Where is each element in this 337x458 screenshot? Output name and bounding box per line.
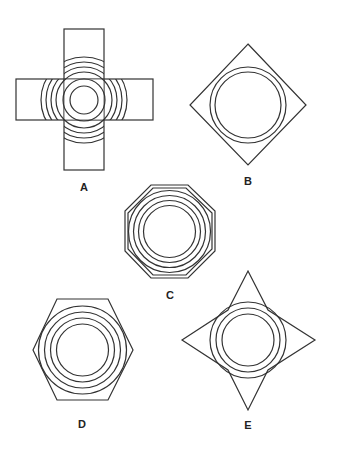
hexagon-circle-1 [39,306,127,394]
hexagon-outline [33,299,133,400]
octagon-circle-3 [139,201,201,263]
star-circle-middle [216,308,280,372]
label-e: E [244,419,251,431]
label-d: D [78,418,86,430]
option-a-figure[interactable] [16,29,153,170]
option-b-figure[interactable] [190,44,306,165]
star-circle-outer [210,302,286,378]
octagon-circle-2 [134,196,206,268]
star-circle-inner [222,314,274,366]
diamond-circle-outer [210,67,286,143]
octagon-circle-4 [144,206,196,258]
option-c-figure[interactable] [125,185,215,278]
figure-canvas: A B C D E [0,0,337,458]
star-outline [182,271,315,410]
octagon-circle-1 [129,191,211,273]
option-e-figure[interactable] [182,271,315,410]
diamond-outline [190,44,306,165]
option-d-figure[interactable] [33,299,133,400]
label-b: B [244,175,252,187]
hexagon-circle-3 [51,318,115,382]
label-a: A [80,181,88,193]
label-c: C [166,289,174,301]
diamond-circle-inner [215,72,281,138]
hexagon-circle-4 [57,324,109,376]
